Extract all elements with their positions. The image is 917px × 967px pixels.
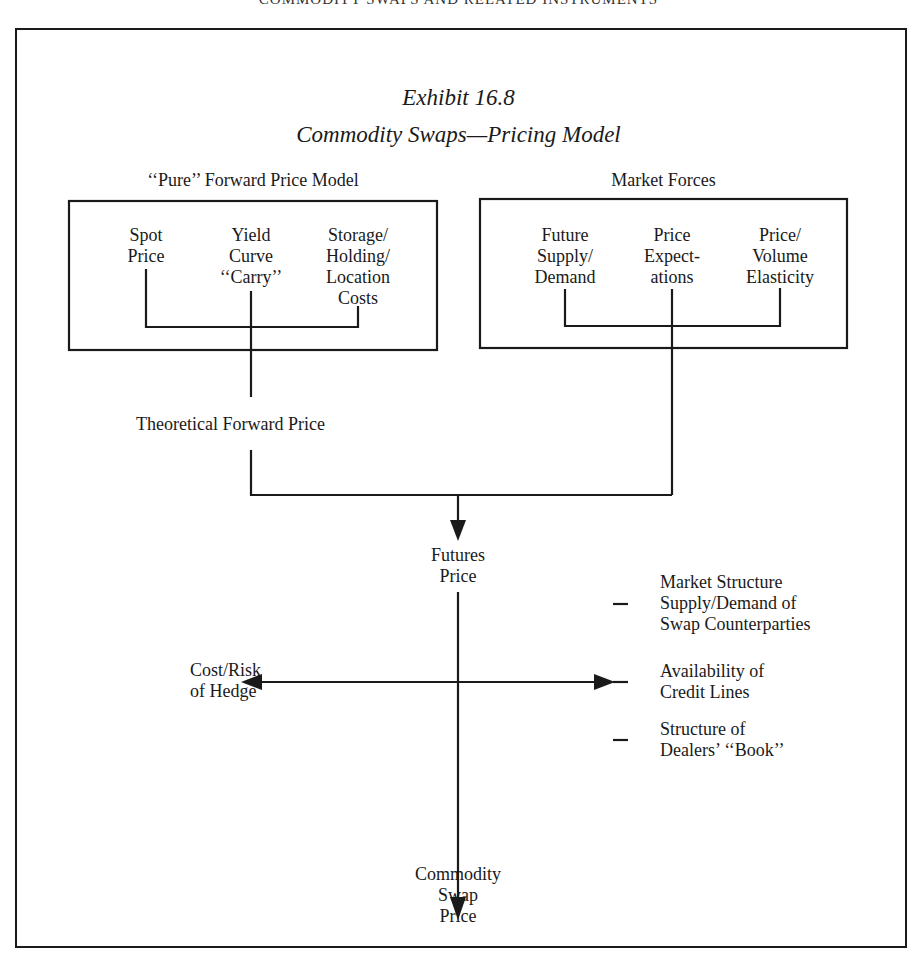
future-supply-demand-node: FutureSupply/Demand: [515, 225, 615, 288]
spot-price-node: SpotPrice: [96, 225, 196, 267]
exhibit-title: Commodity Swaps—Pricing Model: [0, 121, 917, 149]
cost-risk-hedge-node: Cost/Riskof Hedge: [190, 660, 261, 702]
price-expectations-node: PriceExpect-ations: [622, 225, 722, 288]
commodity-swap-price-node: CommoditySwapPrice: [398, 864, 518, 927]
credit-lines-factor: Availability ofCredit Lines: [660, 661, 764, 703]
theoretical-forward-price-node: Theoretical Forward Price: [136, 414, 325, 435]
dealers-book-factor: Structure ofDealers’ ‘‘Book’’: [660, 719, 784, 761]
price-volume-elasticity-node: Price/VolumeElasticity: [725, 225, 835, 288]
futures-price-node: FuturesPrice: [408, 545, 508, 587]
arrow-right-factors-icon: [594, 674, 615, 690]
market-forces-label: Market Forces: [480, 170, 847, 191]
market-structure-factor: Market StructureSupply/Demand ofSwap Cou…: [660, 572, 810, 635]
arrow-down-futures-icon: [450, 520, 466, 541]
storage-costs-node: Storage/Holding/LocationCosts: [302, 225, 414, 309]
merge-line: [251, 450, 672, 495]
exhibit-number: Exhibit 16.8: [0, 84, 917, 112]
yield-curve-node: YieldCurve‘‘Carry’’: [196, 225, 306, 288]
pure-model-label: ‘‘Pure’’ Forward Price Model: [69, 170, 437, 191]
